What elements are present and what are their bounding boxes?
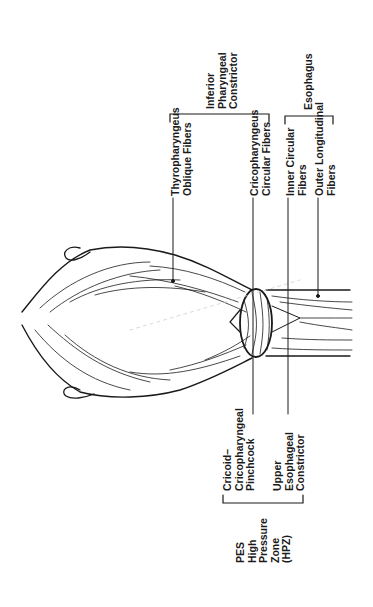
label-inferior-constrictor: Inferior Pharyngeal Constrictor bbox=[205, 52, 240, 109]
label-esophagus: Esophagus bbox=[303, 53, 315, 110]
label-cricopharyngeus: Cricopharyngeus Circular Fibers bbox=[249, 110, 272, 196]
label-thyropharyngeus: Thyropharyngeus Oblique Fibers bbox=[170, 107, 193, 196]
pharynx-outline-lower bbox=[22, 325, 252, 397]
anatomy-illustration bbox=[0, 0, 373, 607]
label-upper-esophageal: Upper Esophageal Constrictor bbox=[272, 432, 307, 491]
pharynx-outline-upper bbox=[22, 247, 252, 312]
bracket-pes-hpz bbox=[223, 495, 303, 503]
thyroid-horn-top bbox=[65, 247, 90, 260]
thyroid-horn-bottom bbox=[64, 387, 94, 398]
label-pes-hpz: PES High Pressure Zone (HPZ) bbox=[235, 518, 293, 563]
label-pinchcock: Cricoid– Cricopharyngeal Pinchcock bbox=[222, 408, 257, 491]
label-inner-circular: Inner Circular Fibers bbox=[285, 128, 308, 196]
label-outer-longitudinal: Outer Longitudinal Fibers bbox=[314, 102, 337, 196]
